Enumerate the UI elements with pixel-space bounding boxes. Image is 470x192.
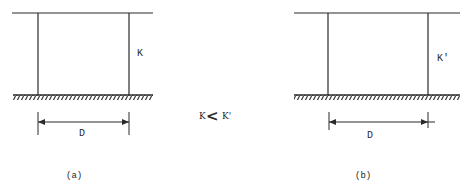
frame-b-dimension-label: D [367, 130, 373, 141]
frame-a-dimension-label: D [79, 128, 85, 139]
frame-a: D K (a) [12, 13, 153, 181]
frame-b-stiffness-label: K' [437, 53, 449, 64]
frame-comparison-diagram: D K (a) K < K' D K' (b) [0, 0, 470, 192]
comparison-right: K' [222, 111, 231, 121]
frame-a-caption: (a) [66, 171, 82, 181]
comparison-left: K [199, 111, 206, 121]
stiffness-comparison: K < K' [199, 107, 231, 125]
frame-a-stiffness-label: K [137, 48, 143, 59]
frame-a-ground [13, 95, 153, 100]
frame-b-ground [294, 95, 460, 100]
frame-b-caption: (b) [355, 171, 371, 181]
frame-b: D K' (b) [294, 13, 460, 181]
frame-b-dimension [329, 112, 435, 130]
comparison-operator: < [206, 107, 219, 125]
